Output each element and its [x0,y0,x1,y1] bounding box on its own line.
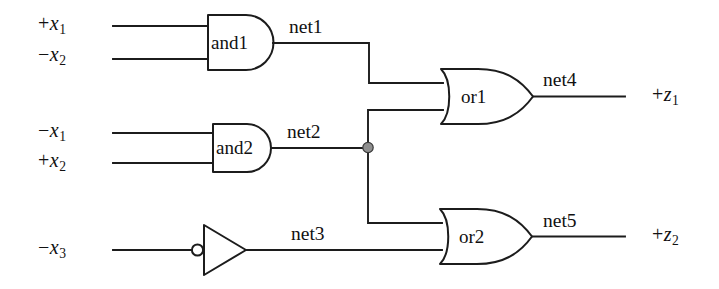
net-label-net2: net2 [287,122,321,142]
net-label-net5: net5 [543,211,577,231]
net-label-net3: net3 [291,224,325,244]
net-label-net4: net4 [543,70,577,90]
input-label-x3-neg-subscript: 3 [59,246,66,261]
circuit-canvas [0,0,719,289]
net2-junction-dot [363,142,373,152]
input-label-x2-neg-subscript: 2 [59,53,66,68]
wire-net1 [273,43,443,83]
gate-label-and1: and1 [211,33,248,52]
input-label-x1-pos-subscript: 1 [59,22,66,37]
net-label-net1: net1 [289,17,323,37]
input-label-x2-pos-subscript: 2 [59,159,66,174]
input-label-x2-neg: −x2 [38,44,66,68]
gate-or1-body[interactable] [441,69,533,124]
input-label-x1-neg-subscript: 1 [59,129,66,144]
output-label-z2-subscript: 2 [672,233,679,248]
inverter-bubble-icon [192,244,203,255]
gate-label-or2: or2 [459,227,484,246]
output-label-z2: +z2 [652,224,679,248]
wire-net2-to-or2 [368,148,442,223]
gate-or2-body[interactable] [440,209,532,264]
output-label-z1-subscript: 1 [672,93,679,108]
gate-inv1-body[interactable] [204,225,246,275]
circuit-diagram: +x1 −x2 −x1 +x2 −x3 and1 and2 or1 or2 ne… [0,0,719,289]
gate-label-and2: and2 [216,138,253,157]
input-label-x2-pos: +x2 [38,150,66,174]
gate-label-or1: or1 [461,87,486,106]
input-label-x1-neg: −x1 [38,120,66,144]
input-label-x1-pos: +x1 [38,13,66,37]
input-label-x3-neg: −x3 [38,237,66,261]
wire-net2-to-or1 [368,110,443,148]
output-label-z1: +z1 [652,84,679,108]
